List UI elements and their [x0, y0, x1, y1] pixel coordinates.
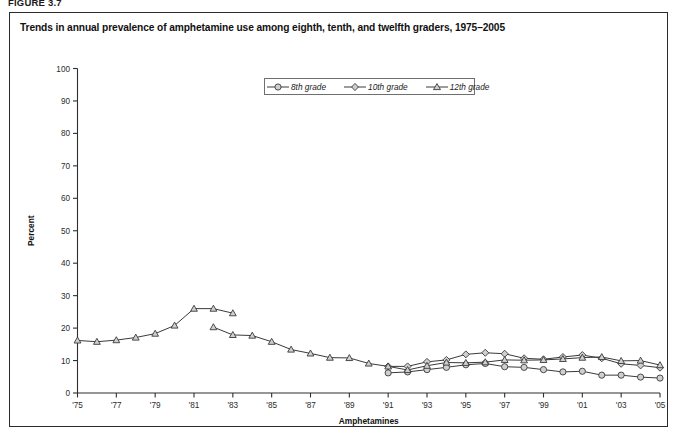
- y-tick-label: 60: [61, 194, 71, 203]
- y-tick-label: 40: [61, 259, 71, 268]
- data-point: [502, 364, 508, 370]
- x-tick-label: '75: [72, 401, 83, 410]
- y-axis-title: Percent: [26, 215, 36, 246]
- x-tick-label: '85: [266, 401, 277, 410]
- x-tick-label: '81: [189, 401, 200, 410]
- x-axis-title: Amphetamines: [339, 416, 399, 426]
- y-tick-label: 100: [56, 65, 70, 74]
- x-tick-label: '95: [460, 401, 471, 410]
- legend-item-0: 8th grade: [265, 80, 326, 94]
- x-tick-label: '99: [538, 401, 549, 410]
- legend-marker-diamond: [342, 80, 368, 94]
- legend-label-8th: 8th grade: [291, 82, 326, 92]
- line-chart: 0102030405060708090100'75'77'79'81'83'85…: [0, 0, 680, 437]
- legend-marker-circle: [265, 80, 291, 94]
- y-tick-label: 80: [61, 129, 71, 138]
- x-tick-label: '03: [616, 401, 627, 410]
- legend-marker-triangle: [424, 80, 450, 94]
- legend-item-2: 12th grade: [424, 80, 490, 94]
- x-tick-label: '91: [383, 401, 394, 410]
- data-point: [74, 337, 81, 343]
- chart-legend: 8th grade 10th grade 12th grade: [264, 78, 475, 95]
- y-tick-label: 10: [61, 357, 71, 366]
- data-point: [618, 372, 624, 378]
- data-point: [152, 330, 159, 336]
- x-tick-label: '79: [150, 401, 161, 410]
- x-tick-label: '87: [305, 401, 316, 410]
- x-tick-label: '77: [111, 401, 122, 410]
- data-point: [540, 367, 546, 373]
- data-point: [482, 349, 489, 356]
- y-tick-label: 90: [61, 97, 71, 106]
- data-point: [210, 324, 217, 330]
- x-tick-label: '05: [655, 401, 666, 410]
- chart-axes: [78, 69, 661, 394]
- data-point: [385, 370, 391, 376]
- x-tick-label: '83: [227, 401, 238, 410]
- y-tick-label: 50: [61, 227, 71, 236]
- x-tick-label: '89: [344, 401, 355, 410]
- data-point: [521, 364, 527, 370]
- legend-label-12th: 12th grade: [450, 82, 490, 92]
- y-tick-label: 30: [61, 292, 71, 301]
- legend-item-1: 10th grade: [342, 80, 408, 94]
- data-point: [560, 369, 566, 375]
- data-point: [599, 372, 605, 378]
- data-point: [462, 351, 469, 358]
- y-tick-label: 70: [61, 162, 71, 171]
- series-line-3: [213, 327, 660, 370]
- x-tick-label: '01: [577, 401, 588, 410]
- x-tick-label: '93: [422, 401, 433, 410]
- series-line-2: [78, 309, 214, 342]
- data-point: [637, 374, 643, 380]
- y-tick-label: 0: [65, 389, 70, 398]
- x-tick-label: '97: [499, 401, 510, 410]
- y-tick-label: 20: [61, 324, 71, 333]
- data-point: [288, 346, 295, 352]
- data-point: [579, 368, 585, 374]
- chart-plot-area: 0102030405060708090100'75'77'79'81'83'85…: [0, 0, 680, 437]
- data-point: [657, 375, 663, 381]
- legend-label-10th: 10th grade: [368, 82, 408, 92]
